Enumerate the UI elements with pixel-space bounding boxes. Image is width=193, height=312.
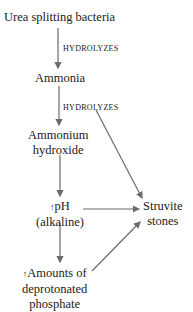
ammonium-line2: hydroxide <box>28 143 88 158</box>
phosphate-line1: Amounts of <box>27 266 86 280</box>
node-deprotonated-phosphate: ↑Amounts of deprotonated phosphate <box>22 266 87 312</box>
edge-label-hydrolyzes-2: HYDROLYZES <box>63 103 119 112</box>
ph-line2: (alkaline) <box>36 215 84 230</box>
node-ph-alkaline: ↑pH (alkaline) <box>36 199 84 230</box>
urea-label: Urea splitting bacteria <box>4 10 115 24</box>
edge-label-hydrolyzes-1: HYDROLYZES <box>63 44 119 53</box>
node-struvite-stones: Struvite stones <box>143 199 183 229</box>
ammonium-line1: Ammonium <box>28 128 88 143</box>
ammonia-label: Ammonia <box>35 71 85 85</box>
arrow-phosphate-to-struvite <box>92 222 140 271</box>
struvite-line1: Struvite <box>143 199 183 214</box>
arrow-ammonia-to-struvite <box>96 110 142 198</box>
phosphate-line3: phosphate <box>22 297 87 312</box>
node-urea-splitting-bacteria: Urea splitting bacteria <box>4 10 115 25</box>
phosphate-line2: deprotonated <box>22 282 87 297</box>
node-ammonia: Ammonia <box>35 71 85 86</box>
ph-line1: pH <box>55 199 70 213</box>
struvite-line2: stones <box>143 214 183 229</box>
node-ammonium-hydroxide: Ammonium hydroxide <box>28 128 88 158</box>
